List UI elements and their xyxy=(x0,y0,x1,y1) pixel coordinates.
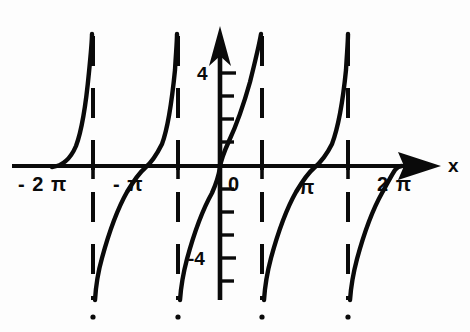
asymptote-dot xyxy=(345,314,350,319)
tangent-branch-1 xyxy=(52,34,92,167)
asymptote-dot xyxy=(90,314,95,319)
y-tick-label-4: 4 xyxy=(197,64,208,83)
asymptote-dot xyxy=(259,314,264,319)
asymptote-dot xyxy=(175,314,180,319)
y-tick-label-neg-4: -4 xyxy=(188,249,205,268)
figure-canvas: - 2 π - π 0 π 2 π 4 -4 x xyxy=(0,0,470,332)
x-tick-label-pi: π xyxy=(299,177,315,197)
x-tick-label-neg-2pi: - 2 π xyxy=(18,174,67,194)
asymptote-end-dots xyxy=(90,314,350,319)
x-tick-label-2pi: 2 π xyxy=(377,174,412,194)
x-axis-name-label: x xyxy=(448,156,459,175)
tangent-function-plot xyxy=(0,0,470,332)
origin-label: 0 xyxy=(228,174,240,194)
x-tick-label-neg-pi: - π xyxy=(113,174,144,194)
